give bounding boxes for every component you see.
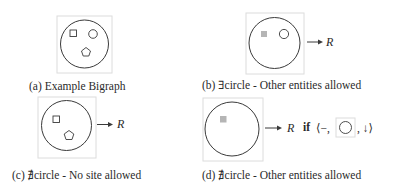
condition-open: ⟨−, — [316, 121, 330, 135]
reactum-label-d: R — [287, 121, 294, 136]
panel-d-diagram — [203, 98, 355, 161]
bigraph-region-box — [38, 97, 96, 158]
pentagon-node-icon — [82, 48, 91, 57]
panel-a-diagram — [57, 16, 112, 73]
circle-node-icon — [89, 30, 98, 39]
arrow-head-icon — [108, 122, 113, 127]
bigraph-region-box — [57, 16, 112, 73]
caption-d: (d) ∄circle - Other entities allowed — [202, 168, 361, 182]
square-node-icon — [53, 116, 60, 123]
bigraph-root-circle — [205, 102, 259, 156]
pentagon-node-icon — [64, 131, 74, 140]
arrow-head-icon — [277, 126, 282, 131]
if-keyword: if — [303, 121, 310, 133]
reactum-label-c: R — [117, 117, 124, 132]
bigraph-region-box — [203, 98, 263, 161]
panel-b-diagram — [246, 13, 323, 74]
site-square-icon — [261, 31, 267, 37]
condition-region-box — [336, 118, 355, 137]
condition-close: , ↓⟩ — [357, 121, 373, 135]
bigraph-root-circle — [249, 18, 300, 69]
panel-c-diagram — [38, 97, 113, 158]
bigraph-root-circle — [61, 20, 109, 68]
caption-a: (a) Example Bigraph — [29, 80, 125, 92]
circle-node-icon — [279, 29, 288, 38]
reactum-label-b: R — [326, 35, 333, 50]
figure-canvas — [0, 0, 399, 191]
condition-keyword: if — [303, 121, 310, 133]
arrow-head-icon — [318, 40, 323, 45]
square-node-icon — [70, 30, 77, 37]
caption-b: (b) ∃circle - Other entities allowed — [202, 78, 361, 92]
bigraph-region-box — [246, 13, 304, 74]
bigraph-root-circle — [42, 101, 92, 151]
caption-c: (c) ∄circle - No site allowed — [12, 168, 141, 182]
condition-circle-icon — [340, 122, 352, 134]
site-square-icon — [220, 116, 227, 123]
